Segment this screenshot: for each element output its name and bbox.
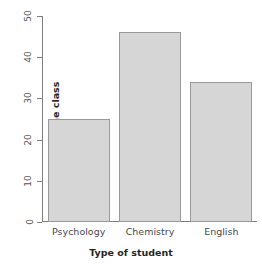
- y-axis-tick-label: 0: [27, 219, 36, 225]
- x-axis-tick-label: Psychology: [43, 227, 114, 237]
- bar-english: [190, 82, 252, 222]
- x-axis-tick-label: English: [186, 227, 257, 237]
- y-axis-tick-label: 50: [24, 10, 33, 21]
- y-axis-tick-label: 30: [24, 93, 33, 104]
- y-axis-tick: [37, 222, 42, 223]
- y-axis-tick: [37, 16, 42, 17]
- x-axis-title: Type of student: [0, 248, 262, 258]
- bar-psychology: [48, 119, 110, 222]
- bar-chemistry: [119, 32, 181, 222]
- bar-chart: Number in the class 01020304050 Psycholo…: [0, 0, 262, 270]
- y-axis-tick-label: 40: [24, 51, 33, 62]
- x-axis-tick-label: Chemistry: [114, 227, 185, 237]
- y-axis-tick: [37, 98, 42, 99]
- y-axis-tick: [37, 140, 42, 141]
- y-axis-tick-label: 10: [24, 175, 33, 186]
- y-axis-tick: [37, 181, 42, 182]
- y-axis-tick: [37, 57, 42, 58]
- plot-area: [43, 16, 257, 222]
- y-axis-tick-label: 20: [24, 134, 33, 145]
